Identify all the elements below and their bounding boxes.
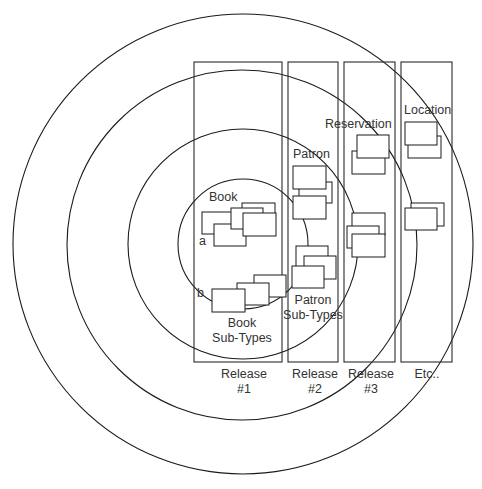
class-box bbox=[357, 135, 389, 158]
release-3-column bbox=[344, 62, 395, 362]
class-box bbox=[293, 196, 326, 219]
patron-stack bbox=[293, 166, 332, 219]
class-box bbox=[243, 213, 276, 236]
class-box bbox=[405, 208, 437, 230]
location-label: Location bbox=[404, 103, 451, 118]
reservation-stack bbox=[352, 135, 389, 174]
patron-subtypes-label: Patron Sub-Types bbox=[282, 293, 344, 323]
class-box bbox=[405, 122, 437, 145]
book-label: Book bbox=[209, 190, 238, 205]
release-1-label-line2: #1 bbox=[209, 382, 279, 397]
etc-label-line1: Etc.. bbox=[392, 367, 462, 382]
book-subtypes-label-line2: Sub-Types bbox=[205, 331, 279, 346]
annotation-b: b bbox=[197, 286, 204, 301]
release-1-label: Release #1 bbox=[209, 367, 279, 397]
etc-stack-stack bbox=[405, 203, 444, 230]
book-subtypes-stack bbox=[212, 275, 286, 312]
class-box bbox=[352, 234, 385, 257]
patron-subtypes-label-line2: Sub-Types bbox=[282, 308, 344, 323]
class-box bbox=[292, 266, 324, 288]
release3-stack-stack bbox=[347, 213, 385, 257]
release-3-label-line2: #3 bbox=[336, 382, 406, 397]
book-subtypes-label: Book Sub-Types bbox=[205, 316, 279, 346]
patron-subtypes-label-line1: Patron bbox=[282, 293, 344, 308]
concentric-release-diagram bbox=[0, 0, 482, 489]
annotation-a: a bbox=[199, 234, 206, 249]
class-box bbox=[212, 289, 245, 312]
class-box bbox=[293, 166, 326, 189]
patron-label: Patron bbox=[293, 147, 330, 162]
reservation-label: Reservation bbox=[325, 117, 392, 132]
patron-subtypes-stack bbox=[292, 246, 336, 288]
book-stack bbox=[202, 203, 276, 246]
release-1-label-line1: Release bbox=[209, 367, 279, 382]
location-stack bbox=[405, 122, 441, 158]
book-subtypes-label-line1: Book bbox=[205, 316, 279, 331]
etc-label: Etc.. bbox=[392, 367, 462, 382]
